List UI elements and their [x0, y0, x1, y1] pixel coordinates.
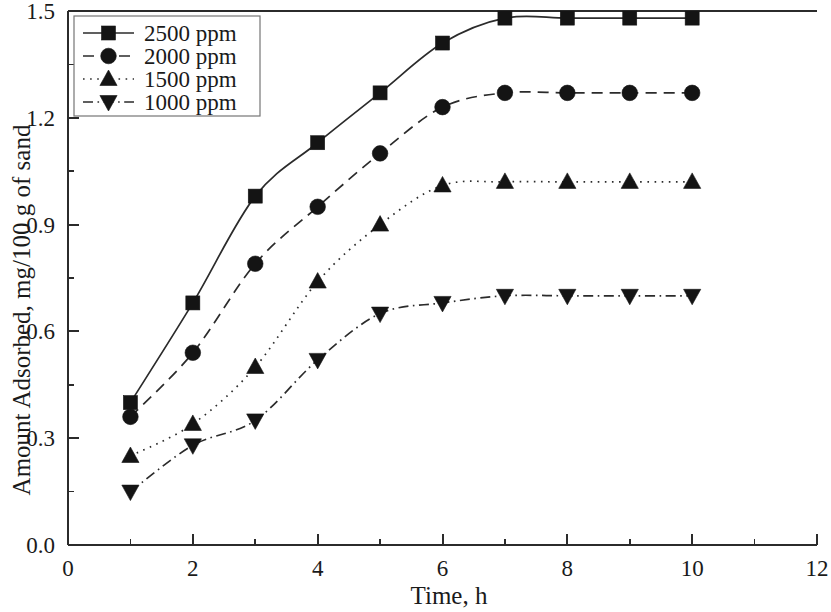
- data-point-marker-circle: [622, 85, 638, 101]
- x-tick-label: 2: [187, 556, 199, 581]
- data-point-marker-circle: [560, 85, 576, 101]
- x-tick-label: 12: [806, 556, 829, 581]
- x-tick-label: 8: [562, 556, 574, 581]
- y-axis-title: Amount Adsorbed, mg/100 g of sand: [8, 124, 35, 495]
- chart-legend: 2500 ppm2000 ppm1500 ppm1000 ppm: [74, 16, 260, 116]
- data-point-marker-circle: [310, 199, 326, 215]
- data-point-marker-square: [102, 26, 116, 40]
- data-point-marker-circle: [435, 99, 451, 115]
- data-point-marker-square: [623, 11, 637, 25]
- data-point-marker-square: [498, 11, 512, 25]
- data-point-marker-circle: [185, 345, 201, 361]
- x-axis-title: Time, h: [411, 582, 488, 609]
- data-point-marker-square: [186, 296, 200, 310]
- data-point-marker-square: [311, 136, 325, 150]
- data-point-marker-circle: [372, 146, 388, 162]
- data-point-marker-square: [560, 11, 574, 25]
- data-point-marker-square: [248, 189, 262, 203]
- x-tick-label: 10: [681, 556, 704, 581]
- adsorption-line-chart: 0246810120.00.30.60.91.21.5 2500 ppm2000…: [0, 0, 831, 612]
- data-point-marker-circle: [101, 48, 117, 64]
- data-point-marker-square: [436, 36, 450, 50]
- chart-figure: 0246810120.00.30.60.91.21.5 2500 ppm2000…: [0, 0, 831, 612]
- data-point-marker-circle: [684, 85, 700, 101]
- data-point-marker-square: [685, 11, 699, 25]
- legend-label: 1000 ppm: [144, 90, 237, 115]
- legend-label: 1500 ppm: [144, 67, 237, 92]
- data-point-marker-square: [373, 86, 387, 100]
- data-point-marker-square: [123, 396, 137, 410]
- x-tick-label: 6: [437, 556, 449, 581]
- x-tick-label: 4: [312, 556, 324, 581]
- legend-label: 2500 ppm: [144, 21, 237, 46]
- data-point-marker-circle: [247, 256, 263, 272]
- y-tick-label: 1.5: [26, 0, 55, 24]
- x-tick-label: 0: [62, 556, 74, 581]
- data-point-marker-circle: [497, 85, 513, 101]
- legend-label: 2000 ppm: [144, 44, 237, 69]
- data-point-marker-circle: [123, 409, 139, 425]
- y-tick-label: 0.0: [26, 533, 55, 558]
